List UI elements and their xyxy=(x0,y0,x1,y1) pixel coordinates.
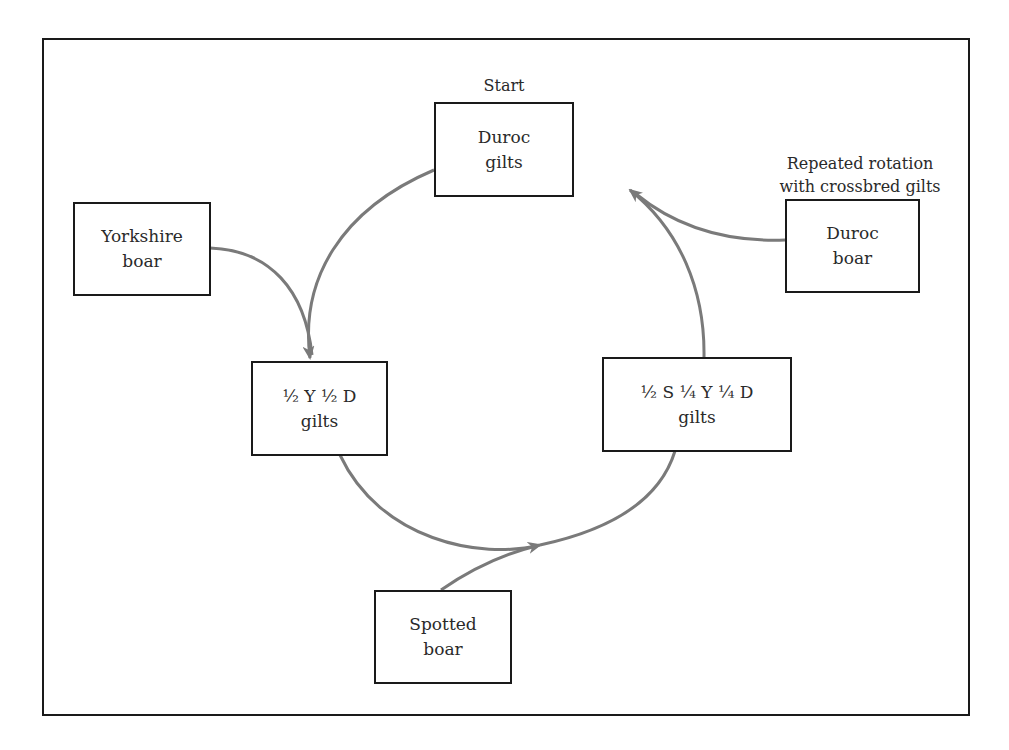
node-line1: ½ S ¼ Y ¼ D xyxy=(641,380,754,405)
node-yorkshire-boar: Yorkshire boar xyxy=(73,202,211,296)
node-line1: Spotted xyxy=(409,612,476,637)
arrow-spotted-to-arc xyxy=(441,546,536,590)
node-line2: boar xyxy=(833,246,872,271)
node-line2: boar xyxy=(122,249,161,274)
rotation-label-line1: Repeated rotation xyxy=(760,152,960,175)
node-duroc-boar: Duroc boar xyxy=(785,199,920,293)
node-line2: boar xyxy=(423,637,462,662)
node-half-y-half-d-gilts: ½ Y ½ D gilts xyxy=(251,361,388,456)
arrow-yorkshire-to-hy-hd xyxy=(210,248,312,355)
arc-bottom-right xyxy=(540,451,675,545)
node-line2: gilts xyxy=(301,409,338,434)
start-label: Start xyxy=(464,74,544,97)
node-line2: gilts xyxy=(678,405,715,430)
node-spotted-boar: Spotted boar xyxy=(374,590,512,684)
node-duroc-gilts: Duroc gilts xyxy=(434,102,574,197)
node-line1: Yorkshire xyxy=(101,224,183,249)
node-half-s-quarter-y-quarter-d-gilts: ½ S ¼ Y ¼ D gilts xyxy=(602,357,792,452)
rotation-label: Repeated rotation with crossbred gilts xyxy=(760,152,960,198)
node-line1: Duroc xyxy=(826,221,878,246)
node-line1: ½ Y ½ D xyxy=(282,384,356,409)
node-line2: gilts xyxy=(485,150,522,175)
arrow-duroc-gilts-to-hy-hd xyxy=(309,170,434,358)
arrow-hy-hd-to-hs-qy-qd xyxy=(340,455,540,550)
node-line1: Duroc xyxy=(478,125,530,150)
rotation-label-line2: with crossbred gilts xyxy=(760,175,960,198)
